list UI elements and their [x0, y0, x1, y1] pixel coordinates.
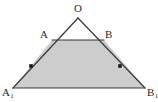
vertex-label-o-text: O [74, 2, 82, 14]
vertex-label-a1-subscript: 1 [10, 92, 14, 100]
vertex-label-b1-subscript: 1 [154, 92, 158, 100]
vertex-label-a1-text: A [2, 86, 10, 98]
vertex-label-b-text: B [105, 28, 112, 40]
vertex-label-o: O [74, 3, 82, 14]
vertex-label-a: A [40, 29, 48, 40]
vertex-label-a1: A1 [2, 87, 14, 100]
shaded-trapezoid-region [13, 40, 145, 88]
left-leg-tick-icon [29, 64, 33, 68]
geometry-figure: O A B A1 B1 [0, 0, 158, 102]
vertex-label-b1: B1 [147, 87, 158, 100]
vertex-label-a-text: A [40, 28, 48, 40]
right-leg-tick-icon [118, 64, 122, 68]
vertex-label-b: B [105, 29, 112, 40]
geometry-canvas [0, 0, 158, 102]
